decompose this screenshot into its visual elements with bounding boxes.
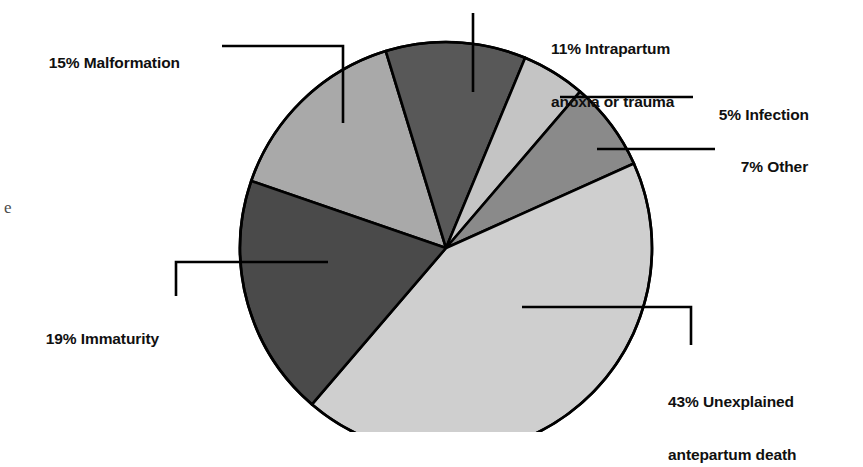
slice-label-intrapartum-line2: anoxia or trauma [551,93,674,111]
slice-label-other: 7% Other [724,140,808,193]
slice-label-malformation: 15% Malformation [32,36,180,89]
slice-label-immaturity-text: 19% Immaturity [46,330,159,347]
slice-label-unexplained: 43% Unexplained antepartum death [668,358,796,467]
slice-label-infection-text: 5% Infection [719,106,809,123]
slice-label-infection: 5% Infection [702,88,809,141]
slice-label-immaturity: 19% Immaturity [29,312,159,365]
slice-label-unexplained-line1: 43% Unexplained [668,393,796,411]
slice-label-malformation-text: 15% Malformation [49,54,180,71]
page-edge-glyph: e [4,198,12,218]
slice-label-intrapartum: 11% Intrapartum anoxia or trauma [551,5,674,146]
slice-label-unexplained-line2: antepartum death [668,446,796,464]
slice-label-intrapartum-line1: 11% Intrapartum [551,40,674,58]
slice-label-other-text: 7% Other [741,158,808,175]
